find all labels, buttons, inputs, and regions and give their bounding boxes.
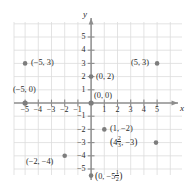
x-tick-neg2: −2 — [60, 106, 69, 114]
label-point-5-3: (5, 3) — [131, 59, 149, 67]
coordinate-plane-figure: y x −5 −4 −3 −2 −1 1 2 3 4 5 5 4 3 2 1 −… — [0, 0, 194, 189]
y-tick-neg3: −3 — [77, 139, 86, 147]
point-1-neg2 — [102, 127, 107, 132]
y-tick-neg1: −1 — [77, 112, 86, 120]
point-neg5-3 — [23, 61, 28, 66]
point-neg2-neg4 — [62, 154, 67, 159]
y-tick-neg2: −2 — [77, 126, 86, 134]
y-tick-1: 1 — [82, 86, 86, 94]
point-0-0 — [89, 100, 94, 105]
label-point-0-neg5half: (0, −512) — [95, 169, 122, 183]
point-0-2 — [89, 74, 94, 79]
label-point-1-neg2: (1, −2) — [110, 125, 133, 133]
label-point-0-2: (0, 2) — [96, 73, 114, 81]
x-tick-4: 4 — [142, 106, 146, 114]
half-whole: 0, −5 — [98, 172, 115, 181]
label-point-neg2-neg4: (−2, −4) — [26, 158, 53, 166]
x-axis-name: x — [180, 104, 184, 113]
x-tick-1: 1 — [102, 106, 106, 114]
label-point-4two3-neg3: (423, −3) — [110, 135, 137, 149]
grid-vertical — [14, 22, 170, 175]
frac-tail: , −3 — [121, 138, 134, 147]
label-point-0-0: (0, 0) — [94, 92, 112, 100]
paren-close: ) — [134, 136, 137, 147]
y-tick-neg4: −4 — [77, 152, 86, 160]
label-point-neg5-0: (−5, 0) — [13, 86, 36, 94]
x-tick-neg4: −4 — [34, 106, 43, 114]
paren-close-2: ) — [119, 170, 122, 181]
x-tick-neg5: −5 — [20, 106, 29, 114]
point-4two3-neg3 — [154, 140, 159, 145]
x-tick-3: 3 — [129, 106, 133, 114]
y-tick-2: 2 — [82, 73, 86, 81]
point-0-neg5half — [89, 173, 94, 178]
y-tick-4: 4 — [82, 46, 86, 54]
y-tick-3: 3 — [82, 60, 86, 68]
y-tick-5: 5 — [82, 33, 86, 41]
point-5-3 — [155, 61, 160, 66]
x-tick-2: 2 — [115, 106, 119, 114]
x-tick-5: 5 — [155, 106, 159, 114]
y-axis-name: y — [83, 10, 87, 19]
y-tick-neg5: −5 — [77, 165, 86, 173]
label-point-neg5-3: (−5, 3) — [31, 59, 54, 67]
x-tick-neg3: −3 — [47, 106, 56, 114]
